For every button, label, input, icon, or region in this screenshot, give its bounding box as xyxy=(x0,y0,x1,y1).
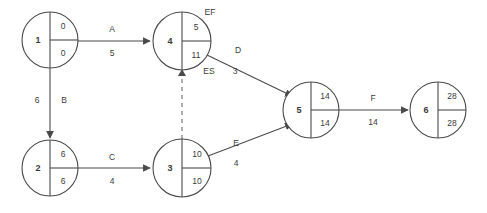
edge-c-label: C xyxy=(109,152,115,162)
edge-b-label: B xyxy=(61,95,67,105)
node-6[interactable]: 6 28 28 xyxy=(410,82,466,138)
node-5[interactable]: 5 14 14 xyxy=(283,82,339,138)
node-2[interactable]: 2 6 6 xyxy=(22,140,78,196)
edge-e-line xyxy=(208,124,292,156)
node-3-es-value: 10 xyxy=(192,176,202,186)
es-annotation-label: ES xyxy=(203,66,215,76)
node-3-ef-value: 10 xyxy=(192,149,202,159)
aoa-network-diagram: A 5 B 6 C 4 D 3 E 4 F xyxy=(0,0,487,213)
edge-c-duration: 4 xyxy=(110,176,115,186)
edge-d: D 3 xyxy=(207,45,292,96)
node-2-ef-value: 6 xyxy=(61,149,66,159)
node-4-id: 4 xyxy=(167,36,172,46)
node-5-es-value: 14 xyxy=(320,118,330,128)
node-3-id: 3 xyxy=(167,163,172,173)
node-2-es-value: 6 xyxy=(61,176,66,186)
edge-e: E 4 xyxy=(208,124,292,168)
edge-c: C 4 xyxy=(78,152,150,186)
edge-e-duration: 4 xyxy=(234,158,239,168)
node-1-es-value: 0 xyxy=(61,48,66,58)
node-4-es-value: 11 xyxy=(192,50,201,60)
edge-e-label: E xyxy=(233,138,239,148)
node-6-ef-value: 28 xyxy=(447,91,457,101)
edge-a: A 5 xyxy=(78,24,150,58)
node-1-id: 1 xyxy=(35,35,40,45)
network-diagram-canvas: A 5 B 6 C 4 D 3 E 4 F xyxy=(0,0,487,213)
edge-d-line xyxy=(207,55,292,96)
node-5-ef-value: 14 xyxy=(320,91,330,101)
edge-a-duration: 5 xyxy=(110,48,115,58)
edge-d-label: D xyxy=(235,45,241,55)
node-2-id: 2 xyxy=(35,163,40,173)
edge-d-duration: 3 xyxy=(233,66,238,76)
edge-f-label: F xyxy=(370,93,375,103)
node-1[interactable]: 1 0 0 xyxy=(22,12,78,68)
edge-f: F 14 xyxy=(339,93,408,127)
edge-a-label: A xyxy=(109,24,115,34)
node-3[interactable]: 3 10 10 xyxy=(153,139,211,197)
edge-f-duration: 14 xyxy=(368,117,378,127)
node-5-id: 5 xyxy=(296,105,301,115)
edge-b-duration: 6 xyxy=(35,95,40,105)
node-4-ef-value: 5 xyxy=(194,22,199,32)
node-1-ef-value: 0 xyxy=(61,21,66,31)
edge-dummy-3-4 xyxy=(178,69,186,139)
node-6-id: 6 xyxy=(423,105,428,115)
ef-annotation-label: EF xyxy=(205,7,216,17)
node-4[interactable]: 4 5 11 xyxy=(153,12,211,70)
node-6-es-value: 28 xyxy=(447,118,457,128)
edge-b: B 6 xyxy=(35,68,68,138)
